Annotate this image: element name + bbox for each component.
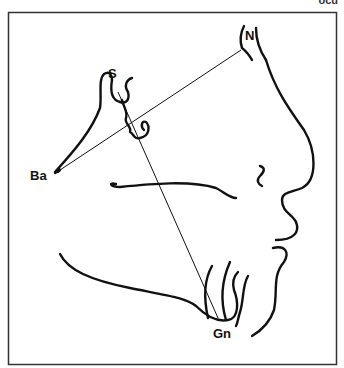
landmark-label-gn: Gn <box>213 326 231 341</box>
sella-turcica-trace <box>111 78 132 103</box>
landmark-label-n: N <box>245 28 254 43</box>
landmark-label-ba: Ba <box>30 168 47 183</box>
cephalometric-diagram: S N Ba Gn <box>0 0 344 368</box>
s-gn-line <box>118 92 218 318</box>
figure-frame <box>9 13 337 365</box>
sphenoid-trace <box>122 100 148 138</box>
nose-profile-trace <box>266 60 314 222</box>
palatal-trace <box>111 183 236 198</box>
mandible-trace <box>60 254 238 320</box>
symphysis-trace <box>205 266 212 318</box>
ba-n-line <box>57 50 241 172</box>
lip-trace <box>252 222 297 336</box>
ala-trace <box>258 166 264 186</box>
incisor-trace-b <box>223 262 230 320</box>
nasion-trace-b <box>256 28 266 60</box>
cranial-base-trace <box>55 73 112 173</box>
landmark-label-s: S <box>108 66 117 81</box>
